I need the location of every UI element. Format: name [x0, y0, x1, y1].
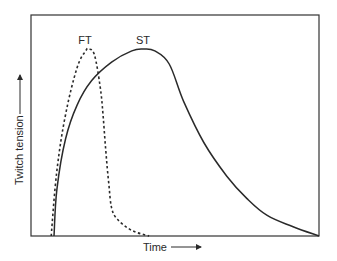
- x-axis-label: Time: [143, 241, 167, 253]
- y-axis-label: Twitch tension: [13, 115, 25, 185]
- st-curve: [54, 49, 319, 236]
- plot-frame: [31, 15, 319, 236]
- st-label: ST: [136, 34, 150, 46]
- ft-curve: [51, 48, 149, 236]
- series-layer: [51, 48, 319, 236]
- twitch-tension-chart: FT ST Time Twitch tension: [0, 0, 337, 261]
- ft-label: FT: [78, 34, 92, 46]
